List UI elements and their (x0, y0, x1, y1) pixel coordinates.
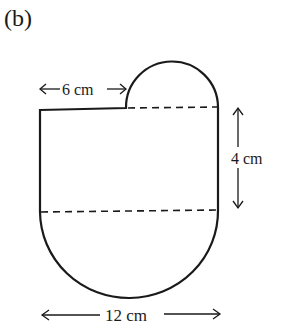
small-semicircle-diameter-dashed (128, 107, 217, 108)
dimension-label-4cm: 4 cm (231, 150, 263, 167)
dimension-label-6cm: 6 cm (62, 81, 94, 98)
large-semicircle-diameter-dashed (41, 210, 217, 212)
dimension-label-12cm: 12 cm (105, 306, 147, 325)
composite-shape-figure: (b) 6 cm 4 cm 12 cm (0, 0, 285, 332)
dimension-6cm: 6 cm (40, 81, 126, 98)
figure-label: (b) (4, 5, 32, 31)
dimension-4cm: 4 cm (231, 108, 263, 208)
dimension-12cm: 12 cm (42, 306, 220, 325)
